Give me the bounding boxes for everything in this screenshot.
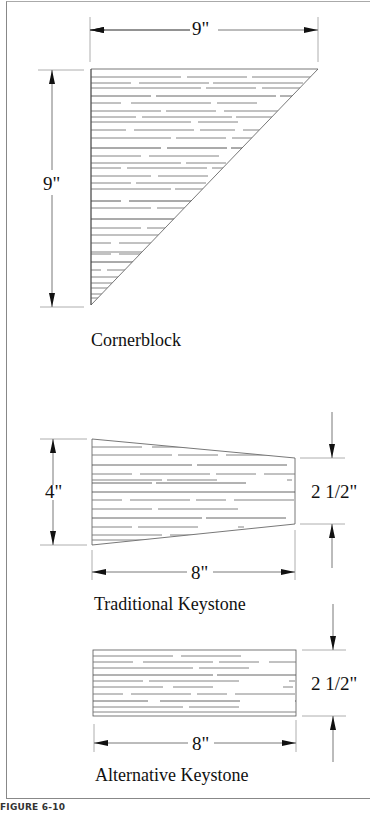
alternative-keystone-drawing (93, 604, 346, 762)
cornerblock-drawing (38, 17, 320, 307)
cornerblock-height-dimension: 9" (43, 173, 60, 195)
alternative-keystone-caption: Alternative Keystone (95, 765, 248, 786)
alternative-keystone-height-dimension: 2 1/2" (311, 673, 357, 695)
cornerblock-width-dimension: 9" (192, 18, 209, 40)
alternative-keystone-length-dimension: 8" (192, 733, 209, 755)
traditional-keystone-caption: Traditional Keystone (94, 594, 246, 615)
traditional-keystone-left-height-dimension: 4" (45, 481, 62, 503)
figure-label: FIGURE 6-10 (0, 802, 65, 812)
traditional-keystone-drawing (40, 412, 345, 580)
traditional-keystone-length-dimension: 8" (191, 562, 208, 584)
traditional-keystone-right-height-dimension: 2 1/2" (311, 481, 357, 503)
cornerblock-caption: Cornerblock (91, 330, 181, 351)
